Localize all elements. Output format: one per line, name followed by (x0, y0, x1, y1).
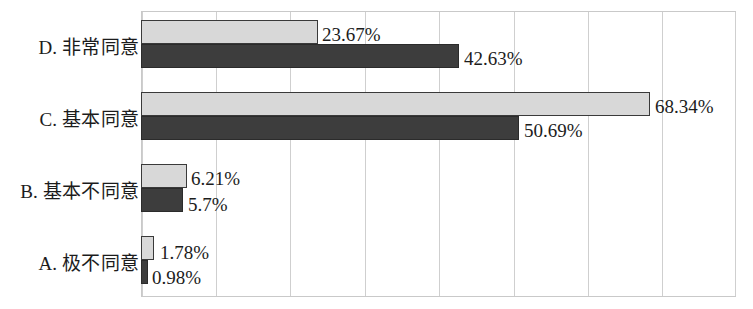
bar-value-d-light: 23.67% (322, 25, 381, 44)
bar-d-dark (141, 44, 459, 68)
bar-value-c-light: 68.34% (655, 97, 714, 116)
bar-value-a-dark: 0.98% (152, 268, 201, 287)
bar-d-light (141, 20, 318, 44)
axis-label-a: A. 极不同意 (0, 254, 139, 273)
bar-c-dark (141, 116, 519, 140)
bar-value-d-dark: 42.63% (464, 49, 523, 68)
gridline (662, 12, 663, 296)
axis-label-b: B. 基本不同意 (0, 182, 139, 201)
bar-a-light (141, 236, 154, 260)
bar-value-b-light: 6.21% (191, 169, 240, 188)
axis-label-c: C. 基本同意 (0, 110, 139, 129)
gridline (735, 12, 736, 296)
bar-chart: D. 非常同意 23.67% 42.63% C. 基本同意 68.34% 50.… (0, 0, 753, 309)
bar-value-b-dark: 5.7% (188, 195, 228, 214)
bar-b-light (141, 164, 187, 188)
bar-a-dark (141, 260, 148, 284)
bar-value-c-dark: 50.69% (524, 121, 583, 140)
bar-b-dark (141, 188, 183, 212)
bar-value-a-light: 1.78% (160, 243, 209, 262)
axis-label-d: D. 非常同意 (0, 38, 139, 57)
bar-c-light (141, 92, 650, 116)
gridline (588, 12, 589, 296)
